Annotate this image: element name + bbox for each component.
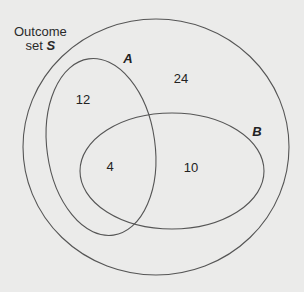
set-s-symbol: S [47, 38, 56, 53]
outcome-set-s-circle [23, 19, 289, 275]
outcome-label-line1: Outcome [14, 25, 67, 39]
region-neither-count: 24 [174, 72, 188, 85]
region-b-only-count: 10 [184, 161, 198, 174]
outcome-set-label: Outcome set S [14, 25, 67, 53]
set-b-label: B [252, 125, 261, 138]
set-a-label: A [123, 52, 132, 65]
region-a-only-count: 12 [76, 93, 90, 106]
region-a-and-b-count: 4 [106, 160, 113, 173]
outcome-label-line2: set S [14, 39, 67, 53]
set-a-ellipse [35, 51, 167, 242]
